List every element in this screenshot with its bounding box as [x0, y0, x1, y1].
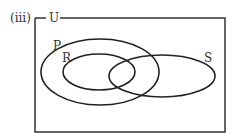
set-r-ellipse: [63, 54, 135, 90]
set-p-label: P: [53, 40, 61, 52]
part-label: (iii): [10, 12, 31, 24]
universal-set-label: U: [49, 12, 59, 24]
set-s-ellipse: [109, 55, 215, 97]
set-s-label: S: [204, 52, 212, 64]
set-r-label: R: [62, 52, 71, 64]
venn-diagram: [0, 0, 232, 137]
